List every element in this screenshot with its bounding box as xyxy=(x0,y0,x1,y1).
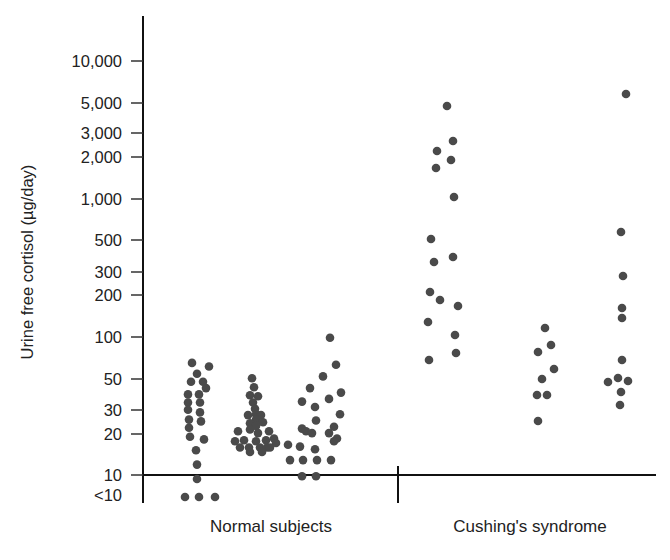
data-point xyxy=(449,137,458,146)
tick-label: 50 xyxy=(104,370,122,388)
tick-lt10: <10 xyxy=(94,486,122,504)
data-point xyxy=(618,314,627,323)
data-point xyxy=(195,390,204,399)
data-point xyxy=(547,341,556,350)
data-point xyxy=(618,304,627,313)
tick-10: 10 xyxy=(104,466,143,484)
data-point xyxy=(185,423,194,432)
data-point xyxy=(181,493,190,502)
data-point xyxy=(306,384,315,393)
tick-label: <10 xyxy=(94,486,122,504)
data-point xyxy=(240,436,249,445)
tick-label: 5,000 xyxy=(81,94,122,112)
chart-figure: Urine free cortisol (µg/day) 10,000 5,00… xyxy=(0,0,670,560)
cushings-syndrome-points xyxy=(424,90,633,426)
tick-label: 100 xyxy=(94,328,122,346)
data-point xyxy=(202,384,211,393)
tick-5000: 5,000 xyxy=(81,94,143,112)
data-point xyxy=(454,302,463,311)
data-point xyxy=(618,356,627,365)
data-point xyxy=(617,388,626,397)
data-point xyxy=(192,446,201,455)
data-point xyxy=(426,288,435,297)
tick-20: 20 xyxy=(104,425,143,443)
data-point xyxy=(205,362,214,371)
tick-50: 50 xyxy=(104,370,143,388)
data-point xyxy=(534,348,543,357)
data-point xyxy=(326,333,335,342)
data-point xyxy=(195,493,204,502)
data-point xyxy=(246,448,255,457)
data-point xyxy=(447,156,456,165)
data-point xyxy=(196,398,205,407)
data-point xyxy=(325,429,334,438)
data-point xyxy=(616,401,625,410)
tick-10000: 10,000 xyxy=(72,52,143,70)
data-point xyxy=(258,448,267,457)
data-point xyxy=(259,418,268,427)
category-label-cushing: Cushing's syndrome xyxy=(453,517,606,536)
data-point xyxy=(327,456,336,465)
data-point xyxy=(538,375,547,384)
data-point xyxy=(250,383,259,392)
data-point xyxy=(196,408,205,417)
data-point xyxy=(624,377,633,386)
tick-label: 200 xyxy=(94,286,122,304)
data-point xyxy=(424,318,433,327)
data-point xyxy=(604,378,613,387)
tick-100: 100 xyxy=(94,328,143,346)
data-point xyxy=(254,429,263,438)
data-point xyxy=(614,374,623,383)
data-point xyxy=(550,365,559,374)
tick-500: 500 xyxy=(94,231,143,249)
data-point xyxy=(284,441,293,450)
data-point xyxy=(193,369,202,378)
data-point xyxy=(541,324,550,333)
tick-300: 300 xyxy=(94,263,143,281)
data-point xyxy=(286,456,295,465)
data-point xyxy=(308,429,317,438)
data-point xyxy=(425,356,434,365)
tick-label: 2,000 xyxy=(81,148,122,166)
data-point xyxy=(533,391,542,400)
data-point xyxy=(266,443,275,452)
tick-label: 30 xyxy=(104,401,122,419)
data-point xyxy=(298,397,307,406)
data-point xyxy=(187,378,196,387)
data-point xyxy=(188,359,197,368)
data-point xyxy=(211,493,220,502)
tick-label: 1,000 xyxy=(81,190,122,208)
tick-30: 30 xyxy=(104,401,143,419)
data-point xyxy=(265,427,274,436)
data-point xyxy=(193,460,202,469)
tick-label: 10 xyxy=(104,466,122,484)
data-point xyxy=(296,442,305,451)
data-point xyxy=(299,456,308,465)
tick-200: 200 xyxy=(94,286,143,304)
tick-1000: 1,000 xyxy=(81,190,143,208)
data-point xyxy=(449,253,458,262)
data-point xyxy=(262,436,271,445)
data-point xyxy=(432,164,441,173)
tick-label: 300 xyxy=(94,263,122,281)
data-point xyxy=(337,388,346,397)
data-point xyxy=(325,395,334,404)
data-point xyxy=(313,456,322,465)
data-point xyxy=(452,349,461,358)
data-point xyxy=(234,427,243,436)
data-point xyxy=(248,374,257,383)
y-axis-ticks: 10,000 5,000 3,000 2,000 1,000 500 300 2… xyxy=(72,52,143,504)
data-point xyxy=(622,90,631,99)
data-point xyxy=(443,102,452,111)
data-point xyxy=(186,432,195,441)
tick-label: 500 xyxy=(94,231,122,249)
data-point xyxy=(430,258,439,267)
data-point xyxy=(184,405,193,414)
tick-label: 10,000 xyxy=(72,52,122,70)
normal-subjects-points xyxy=(181,333,346,501)
data-point xyxy=(184,390,193,399)
data-point xyxy=(451,331,460,340)
data-point xyxy=(185,415,194,424)
data-point xyxy=(330,437,339,446)
data-point xyxy=(246,425,255,434)
